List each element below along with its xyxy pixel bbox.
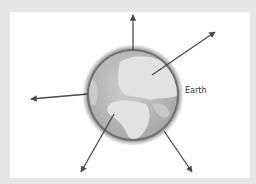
- globe-icon: [82, 44, 184, 146]
- earth-diagram: [0, 0, 256, 184]
- earth-label: Earth: [185, 86, 206, 95]
- arrow-left-icon: [31, 94, 88, 99]
- arrow-down-right-icon: [164, 131, 192, 172]
